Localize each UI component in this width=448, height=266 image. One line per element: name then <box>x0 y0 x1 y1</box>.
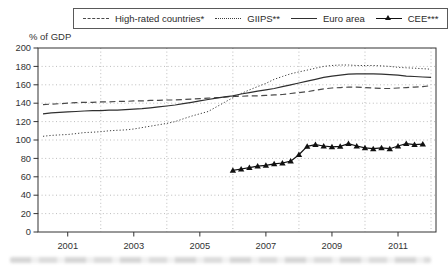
series-line-giips <box>43 65 431 136</box>
series-line-euro-area <box>43 74 431 114</box>
y-tick-label: 60 <box>21 172 31 182</box>
x-tick-label: 2001 <box>57 241 78 251</box>
legend: High-rated countries* GIIPS** Euro area … <box>73 8 448 29</box>
x-tick-label: 2009 <box>322 241 343 251</box>
series-marker-triangle-cee <box>345 141 351 147</box>
y-tick-label: 40 <box>21 190 31 200</box>
y-tick-label: 160 <box>15 80 31 90</box>
x-tick-label: 2011 <box>388 241 408 251</box>
legend-item-label: High-rated countries* <box>115 13 204 24</box>
cropped-caption-remnant <box>10 257 431 263</box>
legend-item-label: GIIPS** <box>247 13 280 24</box>
legend-item-label: CEE*** <box>408 13 439 24</box>
y-tick-label: 0 <box>26 227 31 237</box>
legend-item-cee: CEE*** <box>376 13 439 24</box>
legend-item-label: Euro area <box>323 13 365 24</box>
legend-item-giips: GIIPS** <box>215 13 280 24</box>
x-tick-label: 2005 <box>189 241 210 251</box>
legend-line-sample-solid-icon <box>291 18 317 19</box>
series-marker-triangle-cee <box>403 141 409 147</box>
legend-item-high-rated: High-rated countries* <box>83 13 204 24</box>
y-tick-label: 120 <box>15 117 31 127</box>
y-tick-label: 200 <box>15 43 31 53</box>
x-tick-label: 2003 <box>123 241 144 251</box>
legend-line-sample-triangle-icon <box>376 18 402 19</box>
x-tick-label: 2007 <box>256 241 277 251</box>
y-tick-label: 140 <box>15 98 31 108</box>
y-axis-unit-label: % of GDP <box>29 31 71 42</box>
legend-line-sample-dashed-icon <box>83 18 109 19</box>
legend-line-sample-dotted-icon <box>215 18 241 19</box>
y-tick-label: 80 <box>21 154 31 164</box>
series-marker-triangle-cee <box>312 142 318 148</box>
y-tick-label: 180 <box>15 62 31 72</box>
y-tick-label: 100 <box>15 135 31 145</box>
legend-item-euro-area: Euro area <box>291 13 365 24</box>
series-line-cee <box>233 144 423 171</box>
y-tick-label: 20 <box>21 209 31 219</box>
